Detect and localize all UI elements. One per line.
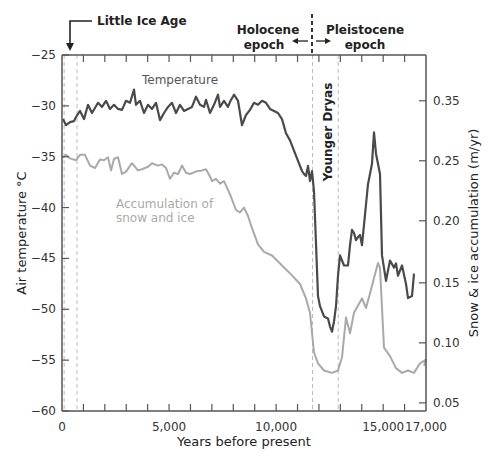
y2-tick-label: 0.15 <box>433 276 460 290</box>
y2-axis-title: Snow & ice accumulation (m/yr) <box>466 129 481 338</box>
pleistocene-label-line1: Pleistocene <box>326 23 404 37</box>
chart: 05,00010,00015,00017,000−25−30−35−40−45−… <box>0 0 492 468</box>
y2-tick-label: 0.05 <box>433 396 460 410</box>
x-tick-label: 17,000 <box>405 420 447 434</box>
little-ice-age-arrowhead-icon <box>66 43 74 51</box>
y-tick-label: −35 <box>31 150 56 164</box>
reference-lines <box>64 55 338 411</box>
pleistocene-arrowhead-icon <box>325 38 331 44</box>
x-tick-label: 10,000 <box>255 420 297 434</box>
x-tick-label: 15,000 <box>362 420 404 434</box>
y-axis-title: Air temperature °C <box>14 171 29 294</box>
accumulation-series-label-line1: Accumulation of <box>116 197 214 211</box>
y2-tick-label: 0.35 <box>433 94 460 108</box>
y-tick-label: −45 <box>31 251 56 265</box>
little-ice-age-annotation: Little Ice Age <box>66 14 187 51</box>
series-layer <box>63 90 426 373</box>
y-tick-label: −60 <box>31 404 56 418</box>
y-tick-label: −25 <box>31 48 56 62</box>
x-axis-title: Years before present <box>176 434 311 449</box>
little-ice-age-arrow <box>70 21 92 44</box>
holocene-label-line2: epoch <box>244 38 285 52</box>
epoch-annotation: Holocene epoch Pleistocene epoch <box>237 14 404 54</box>
y-tick-label: −30 <box>31 99 56 113</box>
accumulation-line <box>63 155 426 373</box>
temperature-series-label: Temperature <box>141 73 218 87</box>
y-tick-label: −50 <box>31 302 56 316</box>
y-tick-label: −55 <box>31 353 56 367</box>
holocene-label-line1: Holocene <box>237 23 300 37</box>
y2-tick-label: 0.25 <box>433 154 460 168</box>
little-ice-age-label: Little Ice Age <box>97 14 187 28</box>
y-tick-label: −40 <box>31 201 56 215</box>
younger-dryas-label: Younger Dryas <box>321 83 335 183</box>
x-tick-label: 5,000 <box>152 420 186 434</box>
holocene-arrowhead-icon <box>292 38 298 44</box>
pleistocene-label-line2: epoch <box>345 38 386 52</box>
y2-tick-label: 0.20 <box>433 214 460 228</box>
accumulation-series-label-line2: snow and ice <box>116 211 195 225</box>
x-tick-label: 0 <box>58 420 66 434</box>
y2-tick-label: 0.10 <box>433 336 460 350</box>
